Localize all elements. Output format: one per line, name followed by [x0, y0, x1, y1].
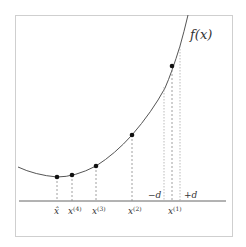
x3-label: x(3): [92, 205, 106, 216]
point-x1: [170, 64, 175, 69]
x2-label: x(2): [128, 205, 142, 216]
point-x3: [94, 164, 99, 169]
x1-label: x(1): [168, 205, 182, 216]
drop-lines: [57, 66, 172, 201]
point-x2: [130, 133, 135, 138]
figure-frame: [16, 16, 233, 237]
plus-d-label: +d: [184, 190, 198, 200]
function-curve: [18, 15, 188, 177]
xhat-label: x̂: [54, 206, 59, 216]
minus-d-label: −d: [148, 190, 162, 200]
function-label: f(x): [189, 27, 212, 42]
x4-label: x(4): [68, 205, 82, 216]
convergence-diagram: f(x) −d +d x̂ x(4) x(3) x(2) x(1): [0, 0, 246, 247]
point-x4: [70, 173, 75, 178]
point-xhat: [55, 175, 60, 180]
iterate-points: [55, 64, 175, 180]
